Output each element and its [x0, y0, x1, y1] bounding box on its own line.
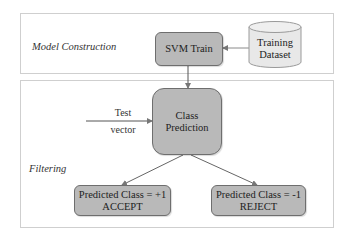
reject-line1: Predicted Class = -1	[216, 189, 301, 201]
class-prediction-line2: Prediction	[165, 122, 208, 134]
svm-train-label: SVM Train	[165, 43, 213, 55]
reject-line2: REJECT	[240, 201, 277, 213]
model-construction-label: Model Construction	[32, 41, 116, 52]
training-dataset-line1: Training	[249, 37, 301, 49]
accept-node: Predicted Class = +1 ACCEPT	[74, 185, 171, 216]
training-dataset-line2: Dataset	[249, 49, 301, 61]
reject-node: Predicted Class = -1 REJECT	[211, 185, 306, 216]
class-prediction-node: Class Prediction	[152, 88, 222, 155]
filtering-label: Filtering	[29, 163, 66, 174]
test-vector-label-top: Test	[100, 107, 146, 118]
training-dataset-node: Training Dataset	[249, 37, 301, 61]
accept-line1: Predicted Class = +1	[79, 189, 166, 201]
svm-train-node: SVM Train	[155, 32, 223, 66]
test-vector-label-bottom: vector	[100, 124, 146, 135]
accept-line2: ACCEPT	[102, 201, 142, 213]
class-prediction-line1: Class	[176, 110, 199, 122]
